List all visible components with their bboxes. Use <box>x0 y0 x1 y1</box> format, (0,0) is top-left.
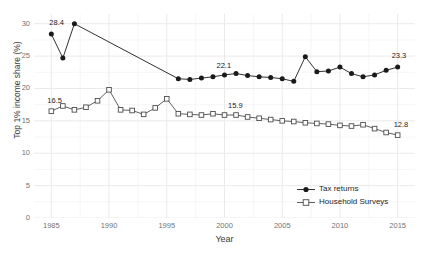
y-tick-30: 30 <box>8 20 30 28</box>
chart-container: Top 1% income share (%) 051015202530 Yea… <box>0 0 429 259</box>
point-label-23-3: 23.3 <box>392 52 407 60</box>
point-label-16-5: 16.5 <box>47 97 62 105</box>
y-tick-20: 20 <box>8 84 30 92</box>
x-axis-title: Year <box>34 234 415 244</box>
y-tick-25: 25 <box>8 52 30 60</box>
y-tick-15: 15 <box>8 117 30 125</box>
x-tick-2005: 2005 <box>262 222 302 230</box>
legend-label-household-surveys: Household Surveys <box>316 197 388 206</box>
x-tick-2015: 2015 <box>378 222 418 230</box>
x-tick-1995: 1995 <box>147 222 187 230</box>
y-axis-tick-labels: 051015202530 <box>4 14 30 218</box>
point-label-15-9: 15.9 <box>228 102 243 110</box>
legend-item-tax-returns[interactable]: Tax returns <box>296 182 426 195</box>
x-tick-2010: 2010 <box>320 222 360 230</box>
y-tick-0: 0 <box>8 214 30 222</box>
y-tick-10: 10 <box>8 149 30 157</box>
chart-legend: Tax returns Household Surveys <box>296 182 426 208</box>
y-tick-5: 5 <box>8 182 30 190</box>
x-tick-1990: 1990 <box>89 222 129 230</box>
point-label-22-1: 22.1 <box>217 62 232 70</box>
point-label-12-8: 12.8 <box>394 121 409 129</box>
legend-label-tax-returns: Tax returns <box>316 184 359 193</box>
legend-marker-open-square-icon <box>296 195 316 208</box>
point-label-28-4: 28.4 <box>49 19 64 27</box>
legend-marker-filled-circle-icon <box>296 182 316 195</box>
x-tick-2000: 2000 <box>205 222 245 230</box>
legend-item-household-surveys[interactable]: Household Surveys <box>296 195 426 208</box>
x-tick-1985: 1985 <box>31 222 71 230</box>
